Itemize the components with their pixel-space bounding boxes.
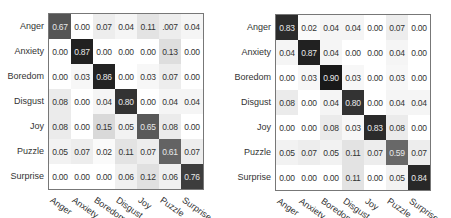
heatmap-cell: 0.07 xyxy=(137,139,159,164)
heatmap-cell: 0.11 xyxy=(342,165,364,190)
heatmap-cell: 0.04 xyxy=(320,90,342,115)
heatmap-cell: 0.00 xyxy=(181,64,203,89)
heatmap-cell: 0.08 xyxy=(159,114,181,139)
heatmap-cell: 0.08 xyxy=(276,90,298,115)
heatmap-cell: 0.61 xyxy=(159,139,181,164)
heatmap-cell: 0.00 xyxy=(93,39,115,64)
heatmap-cell: 0.04 xyxy=(408,90,430,115)
heatmap-cell: 0.08 xyxy=(320,115,342,140)
column-label: Anger xyxy=(275,196,300,218)
column-label: Surprise xyxy=(180,195,213,218)
heatmap-cell: 0.00 xyxy=(137,89,159,114)
heatmap-cell: 0.65 xyxy=(137,114,159,139)
row-label: Anxiety xyxy=(211,40,271,65)
heatmap-cell: 0.04 xyxy=(93,89,115,114)
heatmap-cell: 0.00 xyxy=(364,15,386,40)
heatmap-cell: 0.07 xyxy=(364,140,386,165)
row-label: Puzzle xyxy=(211,140,271,165)
heatmap-cell: 0.04 xyxy=(181,14,203,39)
heatmap-cell: .007 xyxy=(159,14,181,39)
column-label: Anger xyxy=(48,195,73,217)
row-label: Anger xyxy=(0,14,44,39)
heatmap-cell: 0.00 xyxy=(71,14,93,39)
heatmap-cell: 0.05 xyxy=(115,114,137,139)
heatmap-cell: 0.08 xyxy=(49,114,71,139)
row-label: Joy xyxy=(211,115,271,140)
row-label: Anxiety xyxy=(0,39,44,64)
heatmap-cell: 0.00 xyxy=(298,165,320,190)
heatmap-cell: 0.02 xyxy=(298,15,320,40)
heatmap-cell: 0.02 xyxy=(93,139,115,164)
heatmap-cell: 0.07 xyxy=(159,64,181,89)
heatmap-cell: 0.00 xyxy=(115,64,137,89)
heatmap-cell: 0.00 xyxy=(364,40,386,65)
heatmap-cell: 0.07 xyxy=(408,140,430,165)
heatmap-cell: 0.00 xyxy=(298,115,320,140)
heatmap-cell: 0.00 xyxy=(71,114,93,139)
heatmap-cell: 0.03 xyxy=(137,64,159,89)
row-label: Anger xyxy=(211,15,271,40)
heatmap-cell: 0.84 xyxy=(408,165,430,190)
heatmap-cell: 0.04 xyxy=(159,89,181,114)
heatmap-cell: 0.04 xyxy=(181,89,203,114)
heatmap-cell: 0.87 xyxy=(71,39,93,64)
heatmap-cell: 0.07 xyxy=(298,140,320,165)
heatmap-cell: 0.00 xyxy=(276,165,298,190)
heatmap-cell: 0.04 xyxy=(320,40,342,65)
row-label: Joy xyxy=(0,114,44,139)
heatmap-cell: 0.04 xyxy=(276,40,298,65)
heatmap-cell: 0.00 xyxy=(364,165,386,190)
heatmap-cell: 0.03 xyxy=(71,64,93,89)
heatmap-cell: 0.08 xyxy=(386,115,408,140)
column-label: Puzzle xyxy=(385,196,413,218)
heatmap-grid: 0.830.020.040.040.000.070.000.040.870.04… xyxy=(275,14,431,191)
row-label: Disgust xyxy=(211,90,271,115)
heatmap-cell: 0.00 xyxy=(364,90,386,115)
heatmap-cell: 0.03 xyxy=(298,65,320,90)
heatmap-cell: 0.00 xyxy=(408,65,430,90)
heatmap-cell: 0.07 xyxy=(71,139,93,164)
heatmap-cell: 0.11 xyxy=(137,14,159,39)
heatmap-cell: 0.04 xyxy=(320,15,342,40)
heatmap-cell: 0.04 xyxy=(115,14,137,39)
row-label: Boredom xyxy=(211,65,271,90)
heatmap-cell: 0.00 xyxy=(71,164,93,189)
heatmap-cell: 0.90 xyxy=(320,65,342,90)
heatmap-cell: 0.80 xyxy=(342,90,364,115)
heatmap-cell: 0.04 xyxy=(386,40,408,65)
heatmap-cell: 0.83 xyxy=(276,15,298,40)
heatmap-cell: 0.07 xyxy=(181,139,203,164)
heatmap-cell: 0.03 xyxy=(386,65,408,90)
heatmap-cell: 0.06 xyxy=(159,164,181,189)
heatmap-cell: 0.80 xyxy=(115,89,137,114)
row-label: Surprise xyxy=(0,164,44,189)
heatmap-cell: 0.86 xyxy=(93,64,115,89)
heatmap-cell: 0.87 xyxy=(298,40,320,65)
heatmap-cell: 0.11 xyxy=(115,139,137,164)
heatmap-cell: 0.00 xyxy=(49,39,71,64)
heatmap-cell: 0.11 xyxy=(342,140,364,165)
row-label: Puzzle xyxy=(0,139,44,164)
heatmap-cell: 0.13 xyxy=(159,39,181,64)
heatmap-cell: 0.00 xyxy=(137,39,159,64)
heatmap-cell: 0.00 xyxy=(364,65,386,90)
heatmap-cell: 0.76 xyxy=(181,164,203,189)
heatmap-cell: 0.05 xyxy=(49,139,71,164)
heatmap-cell: 0.00 xyxy=(408,15,430,40)
heatmap-cell: 0.00 xyxy=(320,165,342,190)
heatmap-cell: 0.00 xyxy=(342,40,364,65)
column-label: Surprise xyxy=(407,196,440,218)
heatmap-cell: 0.06 xyxy=(115,164,137,189)
heatmap-cell: 0.59 xyxy=(386,140,408,165)
heatmap-cell: 0.00 xyxy=(408,40,430,65)
heatmap-cell: 0.03 xyxy=(342,115,364,140)
heatmap-cell: 0.00 xyxy=(298,90,320,115)
heatmap-cell: 0.00 xyxy=(115,39,137,64)
heatmap-cell: 0.67 xyxy=(49,14,71,39)
heatmap-cell: 0.05 xyxy=(276,140,298,165)
heatmap-cell: 0.00 xyxy=(49,164,71,189)
heatmap-cell: 0.07 xyxy=(93,14,115,39)
heatmap-grid: 0.670.000.070.040.11.0070.040.000.870.00… xyxy=(48,13,204,190)
heatmap-cell: 0.00 xyxy=(408,115,430,140)
row-label: Surprise xyxy=(211,165,271,190)
